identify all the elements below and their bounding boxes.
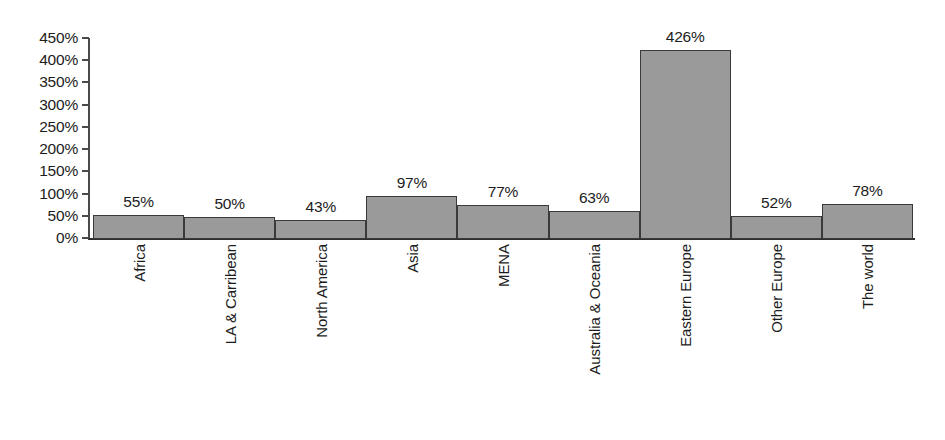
bar-chart: 0%50%100%150%200%250%300%350%400%450% 55… [0,0,945,440]
category-label-slot: The world [822,244,913,434]
x-axis-category-label: MENA [495,244,510,287]
bar [184,217,275,239]
bar-value-label: 426% [640,29,731,45]
bar [275,220,366,239]
bar-value-label: 63% [549,190,640,206]
y-axis-tick-mark [82,59,89,61]
y-axis-tick-mark [82,237,89,239]
y-axis-tick-label: 50% [48,208,78,224]
y-axis-tick-label: 200% [39,141,78,157]
x-axis-category-label: Australia & Oceania [587,244,602,375]
category-label-slot: Asia [366,244,457,434]
bar-value-label: 97% [366,175,457,191]
category-label-slot: North America [275,244,366,434]
x-axis-category-label: Eastern Europe [678,244,693,347]
x-axis-category-label: Other Europe [769,244,784,333]
y-axis-tick-label: 150% [39,163,78,179]
bar-value-label: 55% [93,194,184,210]
y-axis-tick-label: 250% [39,119,78,135]
bar-value-label: 43% [275,199,366,215]
category-label-slot: Australia & Oceania [549,244,640,434]
y-axis-tick-mark [82,81,89,83]
bar [93,215,184,239]
bar [822,204,913,239]
category-label-slot: Africa [93,244,184,434]
x-axis-category-label: The world [860,244,875,309]
category-labels-container: AfricaLA & CarribeanNorth AmericaAsiaMEN… [93,244,913,434]
x-axis-category-label: LA & Carribean [222,244,237,344]
y-axis-tick-mark [82,215,89,217]
bar [549,211,640,239]
bars-container: 55%50%43%97%77%63%426%52%78% [93,30,913,239]
y-axis-tick-label: 450% [39,30,78,46]
y-axis-tick-label: 350% [39,74,78,90]
y-axis-tick-mark [82,193,89,195]
y-axis-tick-mark [82,104,89,106]
y-axis-tick-label: 0% [56,230,78,246]
category-label-slot: MENA [457,244,548,434]
bar [457,205,548,239]
bar-value-label: 77% [457,184,548,200]
bar-value-label: 50% [184,196,275,212]
y-axis-tick-mark [82,148,89,150]
y-axis-tick-mark [82,170,89,172]
bar-value-label: 52% [731,195,822,211]
y-axis-tick-mark [82,37,89,39]
y-axis-tick-label: 300% [39,97,78,113]
y-axis-tick-mark [82,126,89,128]
category-label-slot: LA & Carribean [184,244,275,434]
x-axis-category-label: Africa [131,244,146,282]
y-axis-tick-label: 400% [39,52,78,68]
x-axis-category-label: North America [313,244,328,338]
bar-value-label: 78% [822,183,913,199]
category-label-slot: Eastern Europe [640,244,731,434]
bar [731,216,822,239]
y-axis-tick-label: 100% [39,186,78,202]
x-axis-category-label: Asia [404,244,419,273]
bar [640,50,731,239]
category-label-slot: Other Europe [731,244,822,434]
bar [366,196,457,239]
y-axis-line [88,38,90,239]
